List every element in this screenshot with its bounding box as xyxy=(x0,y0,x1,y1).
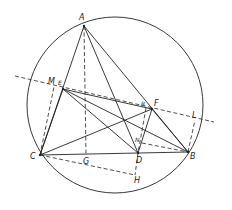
point-A xyxy=(83,25,85,27)
geometry-diagram: A B C D E F G H L M N R xyxy=(0,0,232,210)
label-F: F xyxy=(154,99,159,108)
label-L: L xyxy=(192,111,196,120)
dashed-segment-BL xyxy=(188,120,195,152)
point-D xyxy=(137,152,139,154)
label-B: B xyxy=(190,152,196,161)
point-F xyxy=(151,108,153,110)
segment-CB xyxy=(40,152,188,155)
label-D: D xyxy=(136,156,142,165)
point-markers xyxy=(39,25,189,156)
solid-segments xyxy=(40,26,188,155)
circumcircle xyxy=(27,17,203,193)
label-C: C xyxy=(30,152,36,161)
label-E: E xyxy=(58,79,62,86)
label-G: G xyxy=(83,157,89,166)
segment-CF xyxy=(40,109,152,155)
point-E xyxy=(62,88,64,90)
label-A: A xyxy=(78,13,84,22)
segment-CE xyxy=(40,89,63,155)
label-M: M xyxy=(48,77,55,86)
segment-FB xyxy=(152,109,188,152)
label-R: R xyxy=(141,100,145,107)
dashed-segment-AG xyxy=(84,26,86,154)
point-B xyxy=(187,151,189,153)
label-N: N xyxy=(135,136,140,143)
label-H: H xyxy=(134,176,140,185)
point-C xyxy=(39,154,41,156)
